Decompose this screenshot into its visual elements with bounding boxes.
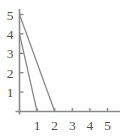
line-chart-figure: 12345 12345 bbox=[0, 0, 125, 138]
x-tick-label-3: 3 bbox=[69, 118, 76, 133]
series-line-shallow bbox=[20, 15, 55, 112]
x-tick-label-1: 1 bbox=[34, 118, 41, 133]
data-series-layer bbox=[20, 15, 55, 112]
x-tick-label-4: 4 bbox=[87, 118, 94, 133]
x-tick-label-5: 5 bbox=[104, 118, 111, 133]
y-tick-label-3: 3 bbox=[7, 46, 14, 61]
y-tick-label-4: 4 bbox=[7, 27, 14, 42]
y-axis-tick-labels: 12345 bbox=[7, 8, 14, 101]
y-tick-label-2: 2 bbox=[7, 66, 14, 81]
axis-layer bbox=[16, 9, 121, 115]
x-axis-tick-labels: 12345 bbox=[34, 118, 111, 133]
x-tick-label-2: 2 bbox=[51, 118, 58, 133]
chart-canvas: 12345 12345 bbox=[0, 0, 125, 138]
y-tick-label-5: 5 bbox=[7, 8, 14, 23]
y-tick-label-1: 1 bbox=[7, 85, 14, 100]
